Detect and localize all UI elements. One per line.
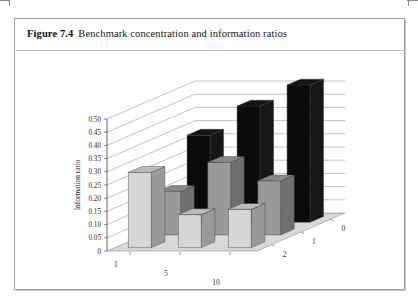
ztick-label-1: 1 [312, 237, 316, 246]
ytick-label-0.20: 0.20 [88, 195, 101, 203]
ztick-label-2: 2 [283, 250, 287, 259]
page-rule-left-tick [9, 0, 10, 6]
ytick-label-0: 0 [97, 248, 101, 256]
ytick-label-0.10: 0.10 [88, 221, 101, 229]
ytick-label-0.35: 0.35 [88, 155, 101, 163]
ytick-label-0.45: 0.45 [88, 129, 101, 137]
xtick-label-5: 5 [164, 269, 168, 278]
ytick-label-0.15: 0.15 [88, 208, 101, 216]
y-axis-title: Information ratio [73, 159, 82, 210]
ztick-mark-1 [301, 232, 304, 234]
ytick-label-0.25: 0.25 [88, 182, 101, 190]
page-rule-right-tick [408, 0, 409, 6]
ztick-mark-0 [330, 219, 333, 221]
ytick-label-0.50: 0.50 [88, 116, 101, 124]
figure-caption: Figure 7.4Benchmark concentration and in… [27, 28, 287, 39]
ztick-mark-2 [272, 245, 275, 247]
figure-title: Benchmark concentration and information … [78, 28, 287, 39]
chart-canvas: 00.050.100.150.200.250.300.350.400.450.5… [15, 51, 406, 290]
bar-concentration-index-0-x10 [228, 203, 264, 247]
bar-concentration-index-0-x5 [178, 209, 214, 248]
chart-3d-bar: 00.050.100.150.200.250.300.350.400.450.5… [15, 51, 406, 290]
ytick-label-0.30: 0.30 [88, 168, 101, 176]
ztick-label-0: 0 [341, 224, 345, 233]
ytick-label-0.40: 0.40 [88, 142, 101, 150]
xtick-label-1: 1 [114, 260, 118, 269]
figure-page: Figure 7.4Benchmark concentration and in… [0, 0, 418, 305]
figure-box: Figure 7.4Benchmark concentration and in… [14, 18, 405, 290]
ytick-label-0.05: 0.05 [88, 234, 101, 242]
figure-number: Figure 7.4 [27, 28, 73, 39]
bar-concentration-index-0-x1 [128, 167, 164, 248]
xtick-label-10: 10 [212, 278, 220, 287]
